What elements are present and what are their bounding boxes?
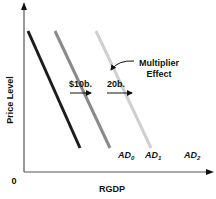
origin-label: 0 (11, 176, 16, 186)
ad-diagram: $10b. 20b. Multiplier Effect AD0 AD1 AD2… (0, 0, 216, 199)
y-axis-arrow-icon (21, 2, 27, 10)
ad0-curve (28, 31, 80, 148)
x-axis-arrow-icon (206, 169, 214, 175)
ad0-label: AD0 (117, 150, 135, 161)
y-axis-label: Price Level (5, 76, 15, 124)
shift-label-first: $10b. (69, 79, 92, 89)
ad2-label: AD2 (183, 150, 201, 161)
shift-label-second: 20b. (107, 79, 125, 89)
ad1-curve (55, 31, 110, 148)
ad2-curve (96, 31, 151, 148)
ad1-label: AD1 (144, 150, 162, 161)
x-axis-label: RGDP (99, 184, 125, 194)
annotation-line1: Multiplier (139, 58, 179, 68)
annotation-line2: Effect (146, 69, 171, 79)
